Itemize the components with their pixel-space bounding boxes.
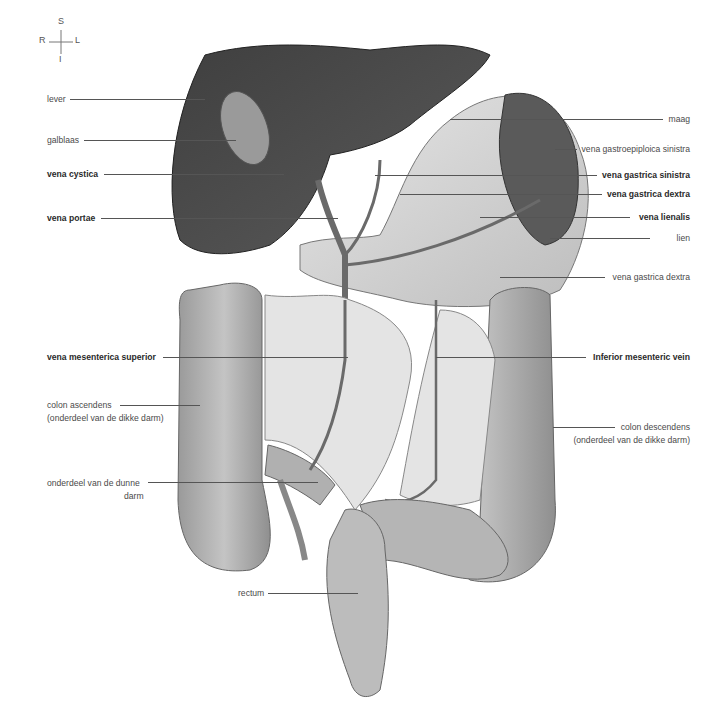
label-colon-ascendens: colon ascendens — [47, 400, 112, 410]
label-vena-gastrica-dextra: vena gastrica dextra — [607, 189, 690, 199]
mesentery-inferior — [400, 310, 495, 505]
leader-line — [450, 119, 663, 120]
leader-line — [70, 99, 205, 100]
leader-line — [163, 357, 348, 358]
label-lien: lien — [677, 233, 690, 243]
label-vena-mesenterica-superior: vena mesenterica superior — [47, 352, 156, 362]
leader-line — [550, 238, 650, 239]
label-vena-lienalis: vena lienalis — [639, 212, 690, 222]
label-inferior-mesenteric-vein: Inferior mesenteric vein — [593, 352, 690, 362]
leader-line — [400, 194, 602, 195]
label-galblaas: galblaas — [47, 135, 79, 145]
leader-line — [555, 149, 577, 150]
orientation-compass: S R L I — [30, 16, 70, 76]
colon-ascendens — [178, 283, 270, 571]
label-dunne-darm: onderdeel van de dunne — [47, 478, 140, 488]
label-dunne-darm-sub: darm — [124, 491, 144, 501]
leader-line — [480, 217, 630, 218]
label-colon-ascendens-sub: (onderdeel van de dikke darm) — [47, 413, 164, 423]
leader-line — [120, 405, 200, 406]
compass-arrows-icon — [45, 28, 85, 68]
label-rectum: rectum — [238, 588, 264, 598]
leader-line — [375, 175, 597, 176]
label-vena-gastrica-dextra-2: vena gastrica dextra — [613, 272, 690, 282]
rectum — [327, 509, 389, 697]
compass-superior: S — [58, 16, 64, 26]
label-colon-descendens-sub: (onderdeel van de dikke darm) — [573, 435, 690, 445]
label-maag: maag — [669, 114, 691, 124]
leader-line — [101, 218, 338, 219]
leader-line — [84, 140, 236, 141]
leader-line — [500, 277, 605, 278]
leader-line — [148, 482, 318, 483]
label-vena-gastrica-sinistra: vena gastrica sinistra — [602, 170, 690, 180]
leader-line — [553, 427, 615, 428]
leader-line — [436, 357, 586, 358]
label-vena-cystica: vena cystica — [47, 169, 98, 179]
label-lever: lever — [47, 94, 66, 104]
leader-line — [104, 174, 284, 175]
label-vena-portae: vena portae — [47, 213, 95, 223]
leader-line — [268, 593, 358, 594]
label-colon-descendens: colon descendens — [621, 422, 690, 432]
label-vena-gastroepiploica-sinistra: vena gastroepiploica sinistra — [582, 144, 690, 154]
